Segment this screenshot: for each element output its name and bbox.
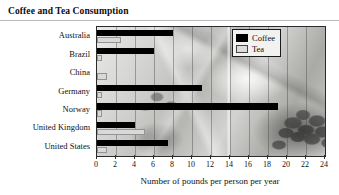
x-tick-label: 12 (206, 160, 214, 169)
x-tick (115, 155, 116, 159)
x-axis-title: Number of pounds per person per year (96, 176, 324, 186)
x-tick (191, 155, 192, 159)
chart-figure: Coffee and Tea Consumption AustraliaBraz… (0, 0, 339, 195)
x-tick (134, 155, 135, 159)
bar-tea-germany (97, 92, 102, 98)
bar-tea-brazil (97, 55, 102, 61)
x-tick-label: 18 (263, 160, 271, 169)
gridline (325, 27, 326, 156)
category-label-china: China (70, 67, 90, 77)
x-tick-label: 0 (94, 160, 98, 169)
tea-swatch-icon (236, 45, 248, 53)
x-tick-label: 20 (282, 160, 290, 169)
category-axis-labels: AustraliaBrazilChinaGermanyNorwayUnited … (0, 26, 93, 155)
x-tick (324, 155, 325, 159)
x-tick (305, 155, 306, 159)
category-label-united-kingdom: United Kingdom (33, 122, 90, 132)
legend-item-tea: Tea (236, 43, 275, 54)
x-tick (248, 155, 249, 159)
x-tick-label: 14 (225, 160, 233, 169)
bar-tea-norway (97, 110, 102, 116)
x-tick-label: 4 (132, 160, 136, 169)
x-tick-label: 16 (244, 160, 252, 169)
bar-tea-australia (97, 37, 121, 43)
x-tick (153, 155, 154, 159)
chart-title: Coffee and Tea Consumption (8, 6, 129, 16)
x-tick (286, 155, 287, 159)
x-tick-label: 22 (301, 160, 309, 169)
x-tick (229, 155, 230, 159)
chart-legend: Coffee Tea (232, 29, 281, 57)
category-label-norway: Norway (63, 104, 90, 114)
x-tick-label: 6 (151, 160, 155, 169)
x-tick (267, 155, 268, 159)
bars-group (97, 27, 325, 156)
category-label-brazil: Brazil (69, 49, 90, 59)
bar-coffee-united-kingdom (97, 122, 135, 128)
bar-coffee-brazil (97, 48, 154, 54)
x-axis-tick-labels: 024681012141618202224 (96, 160, 324, 172)
coffee-swatch-icon (236, 34, 248, 42)
bar-coffee-australia (97, 30, 173, 36)
plot-area (96, 26, 326, 157)
title-divider (0, 20, 339, 21)
category-label-united-states: United States (44, 141, 90, 151)
x-tick-label: 24 (320, 160, 328, 169)
legend-label-tea: Tea (252, 44, 264, 54)
bar-coffee-united-states (97, 140, 168, 146)
x-tick (172, 155, 173, 159)
legend-item-coffee: Coffee (236, 32, 275, 43)
bar-coffee-germany (97, 85, 202, 91)
legend-label-coffee: Coffee (252, 33, 275, 43)
x-tick (210, 155, 211, 159)
bar-coffee-norway (97, 103, 278, 109)
bar-tea-united-kingdom (97, 129, 145, 135)
category-label-germany: Germany (58, 86, 90, 96)
x-tick-label: 2 (113, 160, 117, 169)
x-tick-label: 10 (187, 160, 195, 169)
category-label-australia: Australia (59, 30, 90, 40)
x-axis-title-text: Number of pounds per person per year (141, 176, 280, 186)
bar-tea-china (97, 73, 107, 79)
x-tick (96, 155, 97, 159)
x-tick-label: 8 (170, 160, 174, 169)
bar-tea-united-states (97, 147, 107, 153)
